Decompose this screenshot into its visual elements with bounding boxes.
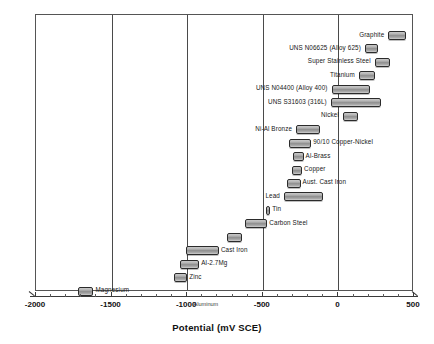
series-label-zinc: Zinc <box>189 273 201 281</box>
series-label-al-brass: Al-Brass <box>306 152 331 160</box>
series-label-lead: Lead <box>265 192 280 200</box>
galvanic-series-chart: GraphiteUNS N06625 (Alloy 625)Super Stai… <box>0 0 434 344</box>
bar-uns-n06625-alloy-625 <box>365 44 378 53</box>
tick-minor-100 <box>353 294 354 297</box>
bar-aust-cast-iron <box>287 179 301 188</box>
tick-major--500 <box>262 292 263 297</box>
bar-ni-al-bronze <box>296 125 320 134</box>
bar-carbon-steel <box>245 219 268 228</box>
tick-major--1500 <box>111 292 112 297</box>
bar-copper <box>292 166 303 175</box>
tick-minor-300 <box>383 294 384 297</box>
tick-label--2000: -2000 <box>25 300 45 309</box>
bar-uns-s31603-316l <box>331 98 381 107</box>
tick-minor-200 <box>368 294 369 297</box>
tick-minor--1300 <box>141 294 142 297</box>
series-label-uns-n04400-alloy-400: UNS N04400 (Alloy 400) <box>256 84 328 92</box>
bar-lead <box>284 192 323 201</box>
tick-minor--400 <box>277 294 278 297</box>
gridline--1500 <box>112 15 113 290</box>
bar-tin <box>266 206 271 215</box>
tick-minor--1400 <box>126 294 127 297</box>
tick-minor--800 <box>216 294 217 297</box>
series-label-nickel: Nickel <box>321 111 339 119</box>
bar-al-brass <box>293 152 304 161</box>
bar-nickel <box>343 112 358 121</box>
gridline-0 <box>338 15 339 290</box>
tick-minor--900 <box>201 294 202 297</box>
bar-al-2-7mg <box>180 260 200 269</box>
series-label-copper: Copper <box>304 165 325 173</box>
x-axis-line <box>30 296 418 297</box>
series-label-graphite: Graphite <box>359 31 384 39</box>
tick-minor--700 <box>232 294 233 297</box>
tick-major-0 <box>337 292 338 297</box>
tick-minor--1600 <box>95 294 96 297</box>
series-label-magnesium: Magnesium <box>95 286 129 294</box>
tick-minor--1800 <box>65 294 66 297</box>
series-label-90-10-copper-nickel: 90/10 Copper-Nickel <box>313 138 373 146</box>
bar-zinc <box>174 273 188 282</box>
tick-major--1000 <box>186 292 187 297</box>
tick-minor--1700 <box>80 294 81 297</box>
bar-unlabeled-15 <box>227 233 242 242</box>
bar-90-10-copper-nickel <box>289 139 312 148</box>
tick-major--2000 <box>35 292 36 297</box>
tick-minor--600 <box>247 294 248 297</box>
series-label-uns-s31603-316l: UNS S31603 (316L) <box>268 98 327 106</box>
tick-minor-400 <box>398 294 399 297</box>
bar-titanium <box>359 71 375 80</box>
series-label-super-stainless-steel: Super Stainless Steel <box>308 57 371 65</box>
bar-uns-n04400-alloy-400 <box>332 85 371 94</box>
tick-label--1500: -1500 <box>100 300 120 309</box>
series-label-uns-n06625-alloy-625: UNS N06625 (Alloy 625) <box>289 44 361 52</box>
tick-major-500 <box>413 292 414 297</box>
series-label-aust-cast-iron: Aust. Cast Iron <box>303 178 347 186</box>
series-label-carbon-steel: Carbon Steel <box>269 219 307 227</box>
tick-minor--300 <box>292 294 293 297</box>
tick-minor--100 <box>322 294 323 297</box>
tick-minor--1900 <box>50 294 51 297</box>
tick-minor--1100 <box>171 294 172 297</box>
tick-label--500: -500 <box>254 300 270 309</box>
series-label-tin: Tin <box>272 205 281 213</box>
gridline--500 <box>263 15 264 290</box>
tick-label-0: 0 <box>335 300 339 309</box>
series-label-titanium: Titanium <box>330 71 355 79</box>
axis-annotation-aluminum: Aluminum <box>193 301 218 307</box>
x-axis-title: Potential (mV SCE) <box>0 322 434 333</box>
tick-label-500: 500 <box>406 300 419 309</box>
series-label-ni-al-bronze: Ni-Al Bronze <box>255 125 292 133</box>
series-label-al-2-7mg: Al-2.7Mg <box>201 259 227 267</box>
bar-graphite <box>388 31 406 40</box>
bar-cast-iron <box>186 246 219 255</box>
tick-minor--1200 <box>156 294 157 297</box>
series-label-cast-iron: Cast Iron <box>221 246 248 254</box>
bar-super-stainless-steel <box>375 58 390 67</box>
tick-minor--200 <box>307 294 308 297</box>
